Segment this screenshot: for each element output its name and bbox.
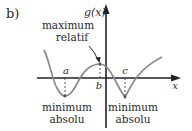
min-point-c (124, 96, 127, 99)
function-curve (44, 50, 162, 97)
point-label-a: a (63, 66, 69, 76)
max-annotation-line1: maximum (42, 20, 94, 31)
min-left-annotation-line1: minimum (42, 102, 92, 113)
graph-canvas (0, 0, 192, 131)
max-point-b (99, 63, 102, 66)
min-point-a (64, 95, 67, 98)
min-right-annotation-line2: absolu (116, 114, 151, 125)
min-right-annotation-line1: minimum (108, 102, 158, 113)
part-label: b) (6, 7, 19, 20)
point-label-c: c (122, 66, 128, 76)
point-label-b: b (96, 81, 102, 91)
x-axis-label: x (172, 81, 178, 91)
min-left-annotation-line2: absolu (50, 114, 85, 125)
max-annotation-line2: relatif (56, 32, 88, 43)
y-axis-label: g(x) (84, 7, 106, 18)
function-graph-figure: b) g(x) maximum relatif a b c x minimum … (0, 0, 192, 131)
annotation-arrowhead-icon (96, 57, 101, 63)
